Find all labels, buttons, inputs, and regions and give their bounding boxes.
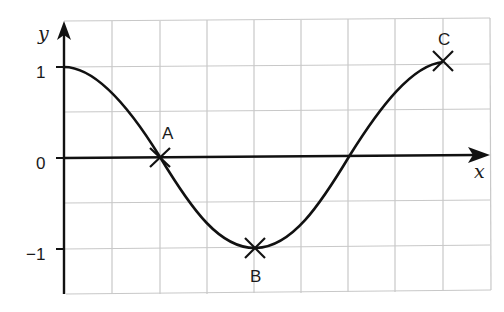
y-axis-label: y — [37, 22, 49, 44]
tick-label-minus-1: −1 — [26, 245, 45, 264]
x-axis — [64, 147, 490, 163]
point-label-a: A — [162, 124, 174, 143]
tick-label-0: 0 — [36, 154, 45, 173]
point-label-c: C — [438, 30, 450, 49]
point-label-b: B — [250, 267, 261, 286]
graph: y x 1 0 −1 A B C — [0, 0, 504, 312]
x-axis-label: x — [474, 160, 485, 182]
tick-label-1: 1 — [36, 63, 45, 82]
